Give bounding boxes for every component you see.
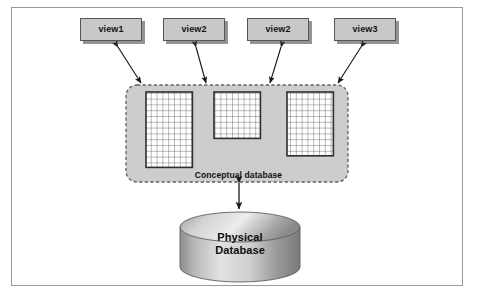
view-box-label: view2 [181,25,206,34]
view-box-label: view1 [98,25,123,34]
conceptual-database-label: Conceptual database [0,170,477,180]
physical-database-label: Physical Database [180,231,300,256]
view-box-view3[interactable]: view3 [334,18,396,41]
diagram-canvas: view1 view2 view2 view3 Conceptual datab… [0,0,477,300]
view2b-link [270,47,281,83]
physical-database-label-line1: Physical [180,231,300,244]
conceptual-database-panel [126,85,348,182]
view-box-view2-a[interactable]: view2 [163,18,225,41]
view-connectors [118,47,361,83]
view3-link [338,47,361,83]
view-box-label: view2 [265,25,290,34]
table-grid-3 [287,92,333,156]
view1-link [118,47,141,83]
physical-database-label-line2: Database [180,244,300,257]
view2a-link [196,47,206,83]
view-box-view2-b[interactable]: view2 [247,18,309,41]
table-grid-1 [146,92,192,167]
table-grid-2 [214,92,260,138]
view-box-label: view3 [352,25,377,34]
view-box-view1[interactable]: view1 [80,18,142,41]
